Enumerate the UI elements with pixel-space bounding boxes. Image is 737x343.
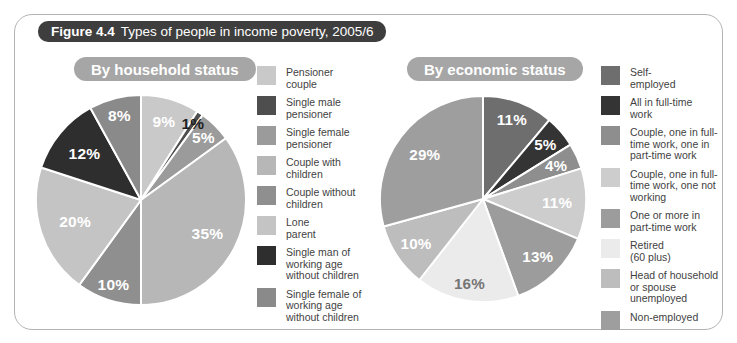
legend-label: Non-employed <box>630 311 698 324</box>
pie-slice-label: 9% <box>152 113 175 130</box>
legend-swatch <box>257 96 276 115</box>
legend-item-couple-without-children: Couple without children <box>257 186 389 210</box>
legend-item-non-employed: Non-employed <box>601 311 735 330</box>
legend-item-head-unemployed: Head of household or spouse unemployed <box>601 269 735 305</box>
legend-item-one-or-more-part-time: One or more in part-time work <box>601 209 735 233</box>
legend-swatch <box>257 126 276 145</box>
legend-item-single-female-working-age: Single female of working age without chi… <box>257 288 389 324</box>
pie-slice-label: 11% <box>542 194 572 211</box>
legend-label: All in full-time work <box>630 96 692 120</box>
legend-swatch <box>601 209 620 228</box>
economic-status-pill: By economic status <box>407 57 583 81</box>
household-status-pill: By household status <box>74 57 256 81</box>
legend-label: Couple, one in full- time work, one in p… <box>630 126 718 162</box>
legend-swatch <box>257 186 276 205</box>
pie-slice-label: 11% <box>497 111 527 128</box>
legend-item-single-male-pensioner: Single male pensioner <box>257 96 389 120</box>
legend-label: Self- employed <box>630 66 676 90</box>
legend-label: Single male pensioner <box>286 96 341 120</box>
legend-label: Head of household or spouse unemployed <box>630 269 718 305</box>
legend-swatch <box>601 66 620 85</box>
figure-title-text: Types of people in income poverty, 2005/… <box>121 24 374 39</box>
legend-label: Couple with children <box>286 156 341 180</box>
legend-label: Retired (60 plus) <box>630 239 671 263</box>
legend-swatch <box>601 239 620 258</box>
legend-item-pensioner-couple: Pensioner couple <box>257 66 389 90</box>
household-pie-chart: 9%1%5%35%10%20%12%8% <box>33 92 249 308</box>
legend-swatch <box>257 66 276 85</box>
legend-swatch <box>257 216 276 235</box>
economic-pie-chart: 11%5%4%11%13%16%10%29% <box>377 93 589 305</box>
legend-item-all-full-time: All in full-time work <box>601 96 735 120</box>
legend-swatch <box>601 126 620 145</box>
figure-number: Figure 4.4 <box>51 24 115 39</box>
legend-label: Couple without children <box>286 186 355 210</box>
pie-slice-label: 5% <box>534 136 557 153</box>
legend-label: Couple, one in full- time work, one not … <box>630 168 718 204</box>
legend-swatch <box>257 156 276 175</box>
pie-slice-label: 10% <box>98 276 130 293</box>
legend-label: Lone parent <box>286 216 316 240</box>
legend-swatch <box>601 168 620 187</box>
economic-status-pill-label: By economic status <box>424 61 566 78</box>
pie-slice-label: 29% <box>409 146 440 163</box>
legend-item-couple-with-children: Couple with children <box>257 156 389 180</box>
legend-label: Single man of working age without childr… <box>286 246 359 282</box>
pie-slice-label: 16% <box>454 275 485 292</box>
household-legend: Pensioner couple Single male pensioner S… <box>257 66 389 323</box>
pie-slice-label: 8% <box>108 107 131 124</box>
legend-swatch <box>257 246 276 265</box>
legend-item-couple-ft-not-working: Couple, one in full- time work, one not … <box>601 168 735 204</box>
legend-item-single-female-pensioner: Single female pensioner <box>257 126 389 150</box>
legend-item-couple-ft-pt: Couple, one in full- time work, one in p… <box>601 126 735 162</box>
legend-item-single-man-working-age: Single man of working age without childr… <box>257 246 389 282</box>
legend-swatch <box>601 269 620 288</box>
pie-slice-label: 4% <box>545 157 568 174</box>
legend-swatch <box>601 96 620 115</box>
legend-swatch <box>257 288 276 307</box>
pie-slice-label: 10% <box>401 235 432 252</box>
legend-label: Single female pensioner <box>286 126 350 150</box>
legend-swatch <box>601 311 620 330</box>
pie-slice-label: 5% <box>192 129 215 146</box>
pie-slice-label: 13% <box>522 248 553 265</box>
legend-item-retired: Retired (60 plus) <box>601 239 735 263</box>
household-status-pill-label: By household status <box>91 61 239 78</box>
economic-legend: Self- employed All in full-time work Cou… <box>601 66 735 330</box>
pie-slice-label: 12% <box>69 145 101 162</box>
pie-slice-label: 35% <box>192 225 224 242</box>
legend-item-lone-parent: Lone parent <box>257 216 389 240</box>
legend-label: Pensioner couple <box>286 66 333 90</box>
legend-label: Single female of working age without chi… <box>286 288 361 324</box>
legend-item-self-employed: Self- employed <box>601 66 735 90</box>
figure-title-pill: Figure 4.4 Types of people in income pov… <box>38 21 386 42</box>
pie-slice-label: 20% <box>59 213 91 230</box>
legend-label: One or more in part-time work <box>630 209 700 233</box>
